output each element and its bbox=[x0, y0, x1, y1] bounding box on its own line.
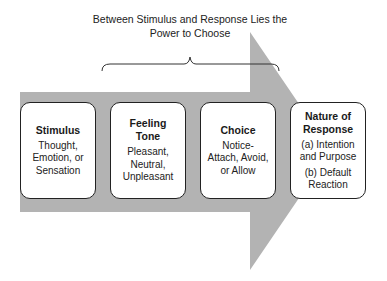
box-title: Nature of bbox=[305, 110, 351, 123]
box-text: Reaction bbox=[308, 179, 347, 192]
caption-line-1: Between Stimulus and Response Lies the bbox=[60, 12, 320, 26]
box-title: Choice bbox=[220, 124, 255, 137]
box-title: Stimulus bbox=[36, 124, 80, 137]
box-text: Sensation bbox=[36, 165, 80, 178]
box-text: and Purpose bbox=[300, 151, 357, 164]
stimulus-box: Stimulus Thought, Emotion, or Sensation bbox=[20, 102, 96, 199]
box-text: Notice- bbox=[222, 140, 254, 153]
box-text: or Allow bbox=[220, 165, 255, 178]
box-text: Pleasant, bbox=[127, 146, 169, 159]
box-text: Neutral, bbox=[130, 159, 165, 172]
box-text: Emotion, or bbox=[32, 152, 83, 165]
box-text: Unpleasant bbox=[123, 171, 174, 184]
choice-box: Choice Notice- Attach, Avoid, or Allow bbox=[200, 102, 276, 199]
box-text: (b) Default bbox=[305, 167, 352, 180]
box-title: Tone bbox=[136, 130, 160, 143]
caption-line-2: Power to Choose bbox=[60, 26, 320, 40]
box-text: Thought, bbox=[38, 140, 77, 153]
diagram-caption: Between Stimulus and Response Lies the P… bbox=[60, 12, 320, 40]
box-title: Feeling bbox=[130, 117, 167, 130]
box-text: (a) Intention bbox=[301, 139, 354, 152]
feeling-tone-box: Feeling Tone Pleasant, Neutral, Unpleasa… bbox=[110, 102, 186, 199]
box-text: Attach, Avoid, bbox=[208, 152, 269, 165]
nature-of-response-box: Nature of Response (a) Intention and Pur… bbox=[290, 102, 366, 199]
box-title: Response bbox=[303, 123, 353, 136]
